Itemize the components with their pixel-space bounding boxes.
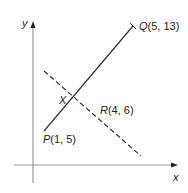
x-axis-label: x [172,171,179,183]
x-axis-arrow-icon [171,163,178,168]
point-q-label: Q(5, 13) [139,20,179,32]
point-r-label: R(4, 6) [100,104,134,116]
y-axis-arrow-icon [31,21,36,28]
y-axis-label: y [21,17,29,29]
coordinate-diagram: y x Q(5, 13) R(4, 6) P(1, 5) X [0,0,188,193]
point-p-label: P(1, 5) [43,133,76,145]
point-x-label: X [58,94,67,106]
